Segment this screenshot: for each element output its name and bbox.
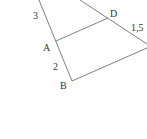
segment-AD — [56, 18, 108, 41]
geometry-diagram: 3 A 2 B D 1,5 — [0, 0, 147, 139]
label-3: 3 — [33, 10, 38, 21]
segment-B-right — [72, 48, 147, 81]
label-D: D — [110, 8, 117, 19]
label-B: B — [60, 80, 67, 91]
label-1-5: 1,5 — [131, 22, 144, 33]
label-A: A — [43, 42, 51, 53]
label-2: 2 — [53, 61, 58, 72]
